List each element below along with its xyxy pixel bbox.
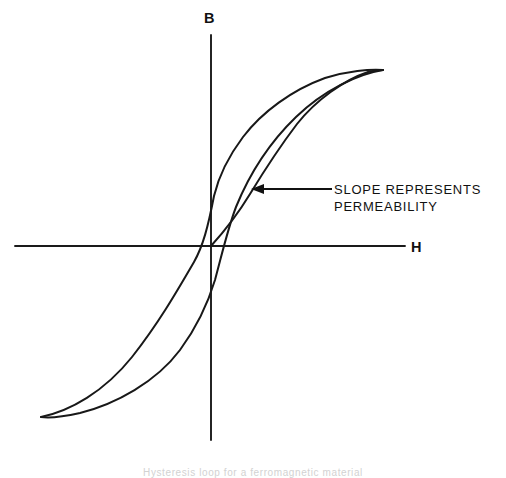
b-axis-label: B (204, 11, 215, 26)
hysteresis-figure: B H SLOPE REPRESENTS PERMEABILITY Hyster… (0, 0, 506, 478)
hysteresis-plot-canvas (0, 0, 506, 478)
initial-magnetization-curve (211, 70, 383, 246)
ascending-branch-curve (41, 70, 383, 417)
annotation-text-line-1: SLOPE REPRESENTS (334, 181, 481, 198)
figure-caption: Hysteresis loop for a ferromagnetic mate… (0, 468, 506, 478)
annotation-text-block: SLOPE REPRESENTS PERMEABILITY (334, 181, 481, 215)
annotation-arrow-icon (251, 184, 264, 194)
annotation-text-line-2: PERMEABILITY (334, 198, 481, 215)
h-axis-label: H (411, 240, 422, 255)
